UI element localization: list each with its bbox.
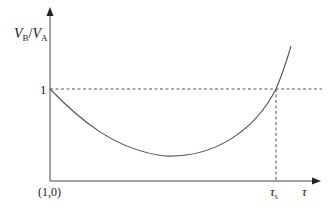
x-axis-arrow-icon	[312, 178, 321, 185]
y-axis-label: VB/VA	[14, 26, 48, 43]
x-axis-label: τ	[302, 184, 308, 199]
y-tick-label-1: 1	[40, 82, 47, 97]
chart: VB/VA 1 (1,0) τs τ	[0, 0, 333, 207]
y-axis-arrow-icon	[47, 7, 54, 16]
data-curve	[50, 46, 291, 156]
x-tick-label-tau-s: τs	[270, 184, 278, 201]
origin-label: (1,0)	[38, 185, 61, 199]
